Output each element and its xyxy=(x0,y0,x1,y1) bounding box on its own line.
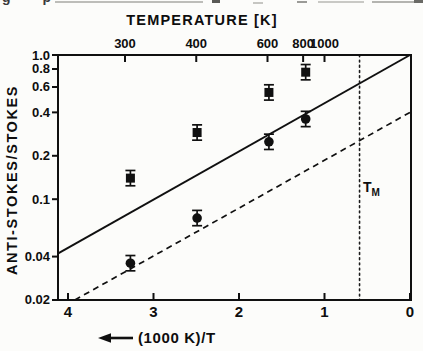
scan-noise-mark xyxy=(297,1,307,3)
bottom-axis-tick-label: 4 xyxy=(64,303,73,320)
scan-noise-mark xyxy=(212,0,220,3)
plot-area: 1.00.80.60.40.20.10.040.0243210300400600… xyxy=(25,36,414,320)
left-arrow-icon xyxy=(98,333,111,343)
melting-temperature-label: TM xyxy=(363,179,380,198)
top-axis-title: TEMPERATURE [K] xyxy=(126,12,277,28)
top-axis-tick-label: 300 xyxy=(114,36,136,51)
bottom-axis-tick-label: 2 xyxy=(235,303,243,320)
data-point-square xyxy=(193,128,202,137)
data-point-square xyxy=(301,68,310,77)
data-point-circle xyxy=(264,137,274,147)
left-axis-tick-label: 0.2 xyxy=(32,148,50,163)
scan-noise-mark xyxy=(372,1,420,3)
scan-noise-mark xyxy=(253,2,263,4)
left-axis-tick-label: 0.02 xyxy=(25,292,50,307)
left-axis-tick-label: 0.4 xyxy=(32,105,51,120)
top-axis-tick-label: 400 xyxy=(185,36,207,51)
scan-noise-mark xyxy=(55,1,203,3)
scan-noise-mark xyxy=(318,1,364,3)
plot-frame xyxy=(58,55,411,300)
scan-noise-mark xyxy=(414,0,423,3)
scanned-figure: g p 1.00.80.60.40.20.10.040.024321030040… xyxy=(0,0,423,351)
solid-theory-line xyxy=(58,55,410,254)
bottom-axis-title-group: (1000 K)/T xyxy=(98,329,216,346)
anti-stokes-stokes-ratio-chart: 1.00.80.60.40.20.10.040.0243210300400600… xyxy=(0,0,423,351)
top-axis-tick-label: 600 xyxy=(257,36,279,51)
cropped-text-artifact: g p xyxy=(0,0,423,6)
data-point-circle xyxy=(192,213,202,223)
left-axis-tick-label: 1.0 xyxy=(32,48,50,63)
left-axis-tick-label: 0.1 xyxy=(32,192,50,207)
left-axis-tick-label: 0.6 xyxy=(32,79,50,94)
data-point-square xyxy=(264,88,273,97)
bottom-axis-title: (1000 K)/T xyxy=(138,329,216,346)
left-axis-title: ANTI-STOKES/STOKES xyxy=(4,85,20,275)
top-axis-tick-label: 1000 xyxy=(310,36,339,51)
bottom-axis-tick-label: 3 xyxy=(149,303,157,320)
left-axis-tick-label: 0.8 xyxy=(32,61,50,76)
bottom-axis-tick-label: 0 xyxy=(406,303,414,320)
data-point-circle xyxy=(126,258,136,268)
left-axis-tick-label: 0.04 xyxy=(25,249,51,264)
data-point-circle xyxy=(301,114,311,124)
bottom-axis-tick-label: 1 xyxy=(320,303,328,320)
data-point-square xyxy=(126,174,135,183)
